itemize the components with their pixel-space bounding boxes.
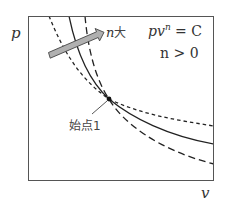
arrow-label-var: n <box>106 25 114 40</box>
increasing-n-arrow <box>49 29 105 59</box>
start-point-leader-line <box>92 101 107 114</box>
arrow-label: n大 <box>106 25 126 40</box>
equation-line-1: pvn = C <box>148 22 202 39</box>
y-axis-label: p <box>11 24 21 42</box>
start-point-marker <box>107 97 112 102</box>
pv-diagram: p v pvn = C n > 0 n大 始点1 <box>0 0 227 206</box>
plot-frame <box>29 17 214 181</box>
arrow-label-suffix: 大 <box>114 26 126 40</box>
equation-line-2: n > 0 <box>160 45 199 61</box>
arrow-shape <box>49 29 105 59</box>
equation-base: pv <box>148 23 165 39</box>
x-axis-label: v <box>201 184 210 202</box>
equation-condition: n > 0 <box>160 45 199 61</box>
start-point-label: 始点1 <box>69 119 101 133</box>
equation-rhs: = C <box>171 23 202 39</box>
